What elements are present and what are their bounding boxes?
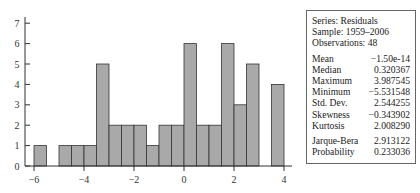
stat-row: Skewness−0.343902 [312,109,410,120]
stat-row: Kurtosis2.008290 [312,120,410,131]
normality-test-stats: Jarque-Bera2.913122Probability0.233036 [312,135,410,157]
stat-label: Maximum [312,75,352,86]
histogram-bar [84,146,97,166]
y-tick-label: 3 [15,99,20,110]
y-axis-ticks: 01234567 [15,18,31,172]
histogram-bar [72,146,85,166]
stat-value: −5.531548 [369,86,410,97]
histogram-bar [97,64,110,166]
x-tick-label: 0 [182,174,187,185]
histogram-bar [134,125,147,166]
stat-label: Median [312,64,341,75]
stat-label: Minimum [312,86,350,97]
histogram-bar [247,64,260,166]
x-tick-label: 2 [232,174,237,185]
y-tick-label: 7 [15,18,20,29]
descriptive-stats: Mean−1.50e-14Median0.320367Maximum3.9875… [312,53,410,131]
y-tick-label: 4 [15,79,20,90]
x-tick-label: −2 [129,174,140,185]
histogram-bar [147,146,160,166]
histogram-bar [234,105,247,166]
stat-row: Mean−1.50e-14 [312,53,410,64]
stat-row: Maximum3.987545 [312,75,410,86]
histogram-bar [172,125,185,166]
stat-value: 2.913122 [374,135,410,146]
stat-value: 2.544255 [374,97,410,108]
x-tick-label: 4 [282,174,287,185]
y-tick-label: 0 [15,161,20,172]
histogram-bar [184,44,197,166]
histogram-bar [34,146,47,166]
y-tick-label: 5 [15,59,20,70]
stat-row: Probability0.233036 [312,146,410,157]
statistics-panel: Series: Residuals Sample: 1959–2006 Obse… [306,10,416,164]
stat-label: Mean [312,53,334,64]
histogram-bar [272,84,285,166]
stat-value: −1.50e-14 [371,53,410,64]
histogram-bar [109,125,122,166]
stat-row: Minimum−5.531548 [312,86,410,97]
stat-label: Probability [312,146,355,157]
histogram-bar [222,44,235,166]
x-axis-ticks: −6−4−2024 [29,166,287,185]
y-tick-label: 1 [15,140,20,151]
stat-label: Std. Dev. [312,97,347,108]
histogram-bar [122,125,135,166]
histogram-bar [59,146,72,166]
histogram-bar [209,125,222,166]
stat-label: Jarque-Bera [312,135,358,146]
y-tick-label: 2 [15,120,20,131]
histogram-chart: 01234567 −6−4−2024 [0,0,300,193]
stat-row: Median0.320367 [312,64,410,75]
sample-range: Sample: 1959–2006 [312,26,410,37]
x-tick-label: −6 [29,174,40,185]
stat-value: 2.008290 [374,120,410,131]
stat-value: 0.320367 [374,64,410,75]
series-name: Series: Residuals [312,15,410,26]
stat-value: 0.233036 [374,146,410,157]
stat-label: Kurtosis [312,120,345,131]
histogram-bar [197,125,210,166]
stat-label: Skewness [312,109,350,120]
x-tick-label: −4 [79,174,90,185]
stat-value: −0.343902 [369,109,410,120]
stat-row: Jarque-Bera2.913122 [312,135,410,146]
observations-count: Observations: 48 [312,37,410,48]
histogram-bars [34,44,284,166]
histogram-bar [159,125,172,166]
stat-value: 3.987545 [374,75,410,86]
stat-row: Std. Dev.2.544255 [312,97,410,108]
y-tick-label: 6 [15,38,20,49]
